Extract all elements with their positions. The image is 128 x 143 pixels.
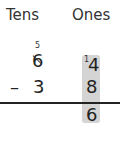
subtrahend-tens-digit: 3 (33, 78, 44, 96)
subtrahend-ones-digit: 8 (86, 78, 97, 96)
minuend-ones-digit: 4 (88, 56, 99, 74)
minus-sign: – (10, 78, 19, 96)
answer-rule (0, 102, 120, 104)
ones-header: Ones (72, 6, 110, 24)
answer-ones-digit: 6 (86, 106, 97, 124)
tens-header: Tens (6, 6, 39, 24)
regrouped-tens-digit: 5 (35, 42, 40, 50)
